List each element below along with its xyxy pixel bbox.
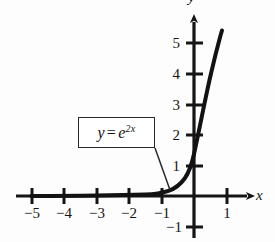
- equation-exponent: 2x: [126, 122, 136, 133]
- y-tick-label-3: 3: [160, 98, 180, 113]
- y-tick-label-2: 2: [160, 128, 180, 143]
- x-tick-label--4: −4: [50, 206, 78, 221]
- y-axis-label: y: [188, 0, 195, 5]
- x-axis-label: x: [256, 188, 263, 203]
- equation-equals: =: [107, 124, 116, 141]
- x-tick-label--2: −2: [115, 206, 143, 221]
- x-tick-label--5: −5: [18, 206, 46, 221]
- equation-y: y: [97, 124, 104, 141]
- equation-base: e: [118, 124, 125, 141]
- y-tick-label-1: 1: [160, 159, 180, 174]
- equation-callout-box: y=e2x: [78, 117, 155, 148]
- x-tick-label-1: 1: [213, 206, 241, 221]
- exponential-function-figure: y=e2x −5 −4 −3 −2 −1 1 5 4 3 2 1 −1 x y: [0, 0, 275, 242]
- y-tick-label-4: 4: [160, 67, 180, 82]
- x-tick-label--3: −3: [83, 206, 111, 221]
- y-tick-label--1: −1: [162, 220, 182, 235]
- y-tick-label-5: 5: [160, 36, 180, 51]
- equation-label: y=e2x: [97, 125, 135, 141]
